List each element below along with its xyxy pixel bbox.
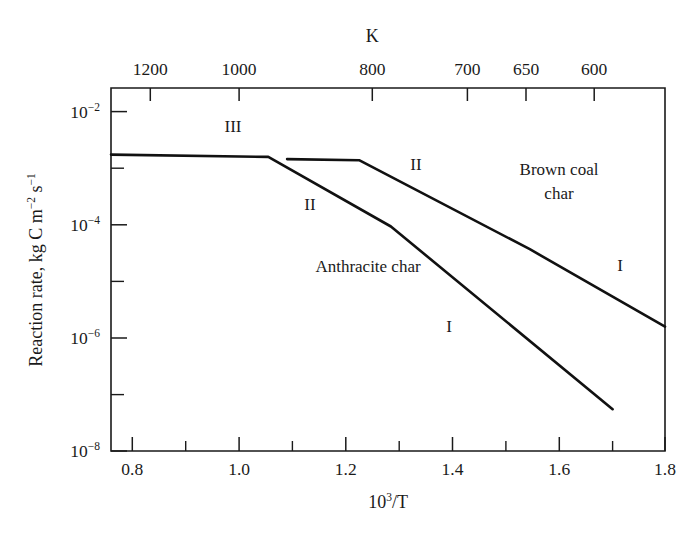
curve-annotations: III II I Anthracite char II I Brown coal… xyxy=(225,117,624,336)
top-tick-label-1200: 1200 xyxy=(133,59,168,79)
y-tick-label-1e-8: 10−8 xyxy=(70,440,100,461)
x-tick-label-1.8: 1.8 xyxy=(654,459,676,479)
brown-coal-char-curve xyxy=(287,159,665,327)
x-tick-label-1.6: 1.6 xyxy=(548,459,570,479)
y-tick-label-1e-4: 10−4 xyxy=(70,214,100,235)
zone-label-II-anthracite: II xyxy=(304,195,316,214)
y-axis-ticks xyxy=(111,112,127,451)
zone-label-I-brown-coal: I xyxy=(617,256,623,275)
x-tick-label-0.8: 0.8 xyxy=(121,459,143,479)
y-tick-label-1e-8-base: 10 xyxy=(70,441,88,461)
data-curves xyxy=(111,155,665,410)
y-axis-title-part2: s xyxy=(26,186,46,198)
y-tick-label-1e-2: 10−2 xyxy=(70,101,100,122)
y-axis-title-exp2: −1 xyxy=(25,173,37,185)
y-tick-label-1e-6: 10−6 xyxy=(70,327,100,348)
top-tick-label-650: 650 xyxy=(513,59,540,79)
x-tick-label-1.2: 1.2 xyxy=(335,459,357,479)
top-axis-ticks xyxy=(150,88,594,101)
reaction-rate-figure: 1200 1000 800 700 650 600 K 10−2 10−4 10… xyxy=(0,0,699,534)
y-axis-title-part1: Reaction rate, kg C m xyxy=(26,209,46,366)
bottom-axis-labels: 0.8 1.0 1.2 1.4 1.6 1.8 103/T xyxy=(121,459,676,512)
top-tick-label-700: 700 xyxy=(454,59,481,79)
top-axis-labels: 1200 1000 800 700 650 600 K xyxy=(133,26,608,79)
chart-svg: 1200 1000 800 700 650 600 K 10−2 10−4 10… xyxy=(0,0,699,534)
x-axis-title-base: 10 xyxy=(368,492,386,512)
y-axis-title-group: Reaction rate, kg C m−2 s−1 xyxy=(25,173,46,367)
y-axis-tick-labels: 10−2 10−4 10−6 10−8 xyxy=(70,101,100,461)
top-tick-label-1000: 1000 xyxy=(222,59,257,79)
bottom-axis-ticks xyxy=(132,437,665,451)
zone-label-I-anthracite: I xyxy=(446,317,452,336)
y-axis-title-exp1: −2 xyxy=(25,197,37,209)
y-tick-label-1e-6-base: 10 xyxy=(70,328,88,348)
top-tick-label-600: 600 xyxy=(581,59,608,79)
y-tick-label-1e-6-exp: −6 xyxy=(88,327,100,339)
x-tick-label-1.4: 1.4 xyxy=(442,459,464,479)
x-axis-title: 103/T xyxy=(368,491,408,512)
y-tick-label-1e-4-base: 10 xyxy=(70,215,88,235)
brown-coal-char-label-line1: Brown coal xyxy=(520,160,599,179)
zone-label-III-anthracite: III xyxy=(225,117,242,136)
y-tick-label-1e-2-base: 10 xyxy=(70,102,88,122)
x-axis-title-rest: /T xyxy=(392,492,408,512)
top-axis-unit-label: K xyxy=(366,26,379,46)
anthracite-char-curve xyxy=(111,155,613,410)
zone-label-II-brown-coal: II xyxy=(410,155,422,174)
y-tick-label-1e-2-exp: −2 xyxy=(88,101,100,113)
anthracite-char-label: Anthracite char xyxy=(315,257,421,276)
brown-coal-char-label-line2: char xyxy=(544,184,574,203)
y-tick-label-1e-8-exp: −8 xyxy=(88,440,100,452)
y-axis-title: Reaction rate, kg C m−2 s−1 xyxy=(25,173,46,367)
x-tick-label-1.0: 1.0 xyxy=(228,459,250,479)
y-tick-label-1e-4-exp: −4 xyxy=(88,214,100,226)
top-tick-label-800: 800 xyxy=(359,59,386,79)
